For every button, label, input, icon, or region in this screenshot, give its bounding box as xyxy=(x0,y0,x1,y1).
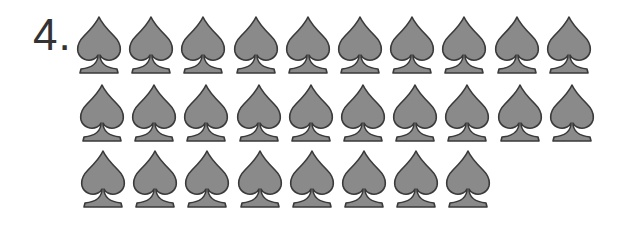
spade-icon xyxy=(389,16,435,74)
spade-icon xyxy=(79,84,125,142)
spade-icon xyxy=(132,150,178,208)
problem-number: 4. xyxy=(33,13,72,57)
spade-icon xyxy=(340,84,386,142)
spade-icon xyxy=(183,84,229,142)
spade-icon xyxy=(236,84,282,142)
spade-icon xyxy=(441,16,487,74)
spade-icon xyxy=(494,16,540,74)
spade-icon xyxy=(444,84,490,142)
spade-icon xyxy=(546,16,592,74)
spade-icon xyxy=(289,150,335,208)
spade-icon xyxy=(445,150,491,208)
spade-icon xyxy=(341,150,387,208)
spade-row-3 xyxy=(80,150,498,208)
spade-icon xyxy=(180,16,226,74)
spade-icon xyxy=(128,16,174,74)
spade-icon xyxy=(237,150,283,208)
spade-icon xyxy=(184,150,230,208)
spade-icon xyxy=(497,84,543,142)
spade-icon xyxy=(76,16,122,74)
spade-icon xyxy=(288,84,334,142)
spade-row-2 xyxy=(79,84,601,142)
spade-icon xyxy=(393,150,439,208)
spade-icon xyxy=(337,16,383,74)
spade-icon xyxy=(233,16,279,74)
spade-icon xyxy=(549,84,595,142)
spade-icon xyxy=(285,16,331,74)
spade-icon xyxy=(131,84,177,142)
spade-icon xyxy=(80,150,126,208)
spade-row-1 xyxy=(76,16,598,74)
spade-icon xyxy=(392,84,438,142)
